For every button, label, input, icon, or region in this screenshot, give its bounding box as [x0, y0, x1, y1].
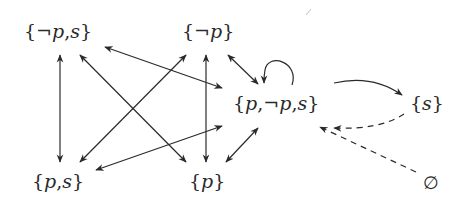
- variable-s: s: [297, 92, 307, 114]
- edge-self-loop: [264, 61, 293, 85]
- variable-p: p: [279, 92, 291, 114]
- node-neg-p: {¬p}: [182, 22, 234, 41]
- diagram-canvas: {¬p,s} {¬p} {p,¬p,s} {s} {p,s} {p} ∅: [0, 0, 464, 208]
- variable-s: s: [70, 20, 80, 42]
- brace-open: {: [24, 20, 36, 42]
- variable-p: p: [245, 92, 257, 114]
- node-p: {p}: [189, 172, 225, 191]
- node-p-s: {p,s}: [32, 172, 84, 191]
- brace-close: }: [80, 20, 92, 42]
- brace-open: {: [189, 170, 201, 192]
- brace-open: {: [233, 92, 245, 114]
- node-neg-p-s: {¬p,s}: [24, 22, 92, 41]
- brace-open: {: [182, 20, 194, 42]
- variable-p: p: [201, 170, 213, 192]
- variable-p: p: [52, 20, 64, 42]
- variable-p: p: [44, 170, 56, 192]
- brace-close: }: [432, 92, 444, 114]
- edge-negps-pnegps: [105, 47, 222, 88]
- brace-close: }: [213, 170, 225, 192]
- empty-set-symbol: ∅: [423, 172, 439, 193]
- edge-pnegps-s: [334, 80, 402, 95]
- node-p-neg-p-s: {p,¬p,s}: [233, 94, 319, 113]
- brace-open: {: [32, 170, 44, 192]
- variable-p: p: [210, 20, 222, 42]
- brace-open: {: [410, 92, 422, 114]
- edge-negp-pnegps: [228, 55, 258, 84]
- negation-symbol: ¬: [194, 20, 210, 42]
- negation-symbol: ¬: [263, 92, 279, 114]
- edge-p-pnegps: [226, 128, 258, 162]
- negation-symbol: ¬: [36, 20, 52, 42]
- brace-close: }: [307, 92, 319, 114]
- brace-close: }: [72, 170, 84, 192]
- brace-close: }: [222, 20, 234, 42]
- node-s: {s}: [410, 94, 444, 113]
- variable-s: s: [62, 170, 72, 192]
- variable-s: s: [422, 92, 432, 114]
- edge-empty-pnegps: [320, 127, 416, 172]
- node-empty-set: ∅: [423, 174, 439, 192]
- edge-s-pnegps: [334, 114, 404, 128]
- edge-ps-pnegps: [96, 126, 222, 170]
